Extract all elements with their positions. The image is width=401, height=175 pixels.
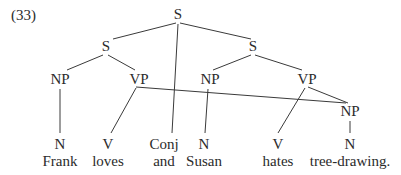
node-conj: Conj (149, 136, 178, 152)
word-hates: hates (263, 153, 294, 169)
word-tree-drawing: tree-drawing. (310, 153, 390, 169)
node-v-hates: V (273, 136, 284, 152)
edge-root-to-s-right (180, 23, 251, 39)
edge-root-to-conj (172, 24, 178, 133)
edge-s-right-to-np (213, 55, 251, 70)
node-vp-right: VP (297, 71, 316, 87)
word-loves: loves (92, 153, 124, 169)
edge-s-left-to-np (67, 55, 103, 70)
node-s-left: S (102, 38, 110, 54)
node-root-s: S (174, 6, 182, 22)
edge-np-right-to-n (205, 89, 208, 133)
word-frank: Frank (43, 153, 78, 169)
word-susan: Susan (186, 153, 222, 169)
terminal-words: Frank loves and Susan hates tree-drawing… (43, 153, 391, 169)
example-number: (33) (11, 7, 36, 24)
node-n-frank: N (55, 136, 66, 152)
edge-root-to-s-left (113, 23, 176, 39)
node-n-susan: N (199, 136, 210, 152)
node-np-right: NP (200, 71, 219, 87)
node-v-loves: V (103, 136, 114, 152)
syntax-tree-diagram: (33) S S S NP VP NP VP NP N V Conj N V N… (0, 0, 401, 175)
edge-s-right-to-vp (255, 55, 302, 70)
node-n-tree: N (345, 136, 356, 152)
edge-s-left-to-vp (108, 55, 135, 70)
word-and: and (153, 153, 175, 169)
node-np-object: NP (340, 103, 359, 119)
node-vp-left: VP (129, 71, 148, 87)
edge-vp-left-to-v (111, 88, 136, 133)
node-np-left: NP (50, 71, 69, 87)
edge-vp-right-to-v (278, 88, 305, 133)
node-s-right: S (249, 38, 257, 54)
